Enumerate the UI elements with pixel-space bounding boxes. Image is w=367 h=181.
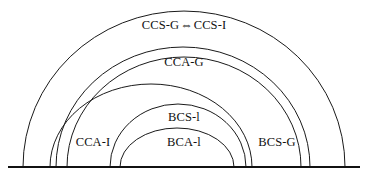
- label-bca-i: BCA-l: [167, 136, 201, 149]
- label-ccs-g: CCS-G: [142, 18, 179, 32]
- label-cca-i: CCA-I: [76, 136, 111, 149]
- label-ccs-i: CCS-I: [194, 18, 226, 32]
- bidirectional-arrow-icon: ⇔: [179, 19, 194, 32]
- label-bcs-i: BCS-l: [168, 111, 200, 124]
- label-ccs-pair: CCS-G⇔CCS-I: [142, 19, 226, 32]
- containment-diagram: CCS-G⇔CCS-I CCA-G BCS-l BCA-l CCA-I BCS-…: [0, 0, 367, 181]
- label-bcs-g: BCS-G: [258, 136, 295, 149]
- label-cca-g: CCA-G: [164, 56, 203, 69]
